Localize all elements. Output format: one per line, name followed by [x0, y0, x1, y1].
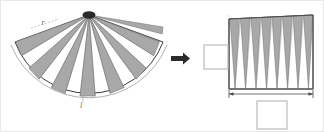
- figure-canvas: r l: [1, 1, 324, 132]
- width-callout-box[interactable]: [257, 101, 287, 129]
- arc-length-label: l: [80, 101, 83, 110]
- transform-arrow: [171, 53, 190, 65]
- arrow-icon: [171, 53, 190, 65]
- sector-fan: r l: [11, 11, 167, 110]
- height-callout-box[interactable]: [204, 45, 228, 69]
- radius-label: r: [41, 18, 45, 27]
- width-dimension: [229, 90, 313, 98]
- rectangle-assembly: [204, 15, 313, 129]
- apex-point: [83, 11, 96, 19]
- radius-leader: [31, 19, 59, 28]
- geometry-figure: r l: [0, 0, 324, 132]
